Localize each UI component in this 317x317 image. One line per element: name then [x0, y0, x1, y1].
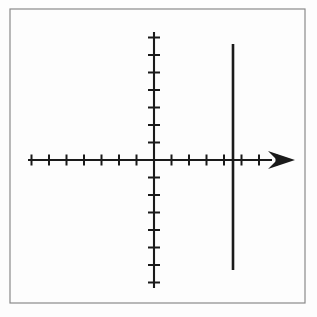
- coordinate-plane-figure: [0, 0, 317, 317]
- figure-background: [0, 0, 317, 317]
- figure-root: [0, 0, 317, 317]
